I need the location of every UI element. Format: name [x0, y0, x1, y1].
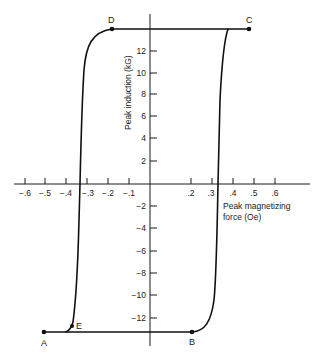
point-c-marker — [247, 27, 252, 32]
x-tick-label: .4 — [229, 188, 236, 198]
point-e-marker — [70, 324, 74, 328]
x-axis-title-line2: force (Oe) — [223, 212, 261, 222]
x-tick-labels: −.6 −.5 −.4 −.3 −.2 −.1 .2 .3 .4 .5 .6 — [19, 188, 279, 198]
x-axis-title-line1: Peak magnetizing — [223, 201, 291, 211]
point-a-marker — [42, 330, 47, 335]
hysteresis-chart: −.6 −.5 −.4 −.3 −.2 −.1 .2 .3 .4 .5 .6 1… — [0, 0, 320, 359]
y-tick-label: 2 — [141, 156, 146, 166]
y-tick-label: 4 — [141, 133, 146, 143]
right-branch — [192, 29, 228, 332]
axes — [14, 14, 310, 346]
y-tick-label: −2 — [136, 201, 146, 211]
point-b-marker — [190, 330, 195, 335]
y-tick-label: −6 — [136, 246, 146, 256]
loop-points — [42, 27, 252, 335]
y-tick-label: −8 — [136, 268, 146, 278]
x-tick-label: −.2 — [102, 188, 114, 198]
x-tick-label: −.6 — [19, 188, 31, 198]
left-branch — [66, 29, 112, 332]
y-tick-label: 12 — [137, 46, 147, 56]
y-tick-label: −12 — [132, 313, 147, 323]
x-tick-label: .6 — [271, 188, 278, 198]
y-tick-label: −4 — [136, 223, 146, 233]
point-d-label: D — [108, 15, 115, 25]
y-tick-label: 8 — [141, 89, 146, 99]
x-tick-label: −.5 — [39, 188, 51, 198]
x-tick-label: .5 — [250, 188, 257, 198]
x-tick-label: −.3 — [82, 188, 94, 198]
point-e-label: E — [76, 321, 82, 331]
point-a-label: A — [41, 338, 47, 348]
y-tick-label: 6 — [141, 111, 146, 121]
x-tick-label: .2 — [187, 188, 194, 198]
y-tick-label: 10 — [137, 68, 147, 78]
y-axis-title: Peak induction (kG) — [123, 55, 133, 130]
x-tick-label: .3 — [207, 188, 214, 198]
point-c-label: C — [246, 15, 253, 25]
hysteresis-loop — [44, 29, 249, 332]
point-d-marker — [110, 27, 115, 32]
x-tick-label: −.1 — [123, 188, 135, 198]
point-b-label: B — [189, 337, 195, 347]
y-tick-label: −10 — [132, 290, 147, 300]
x-tick-label: −.4 — [60, 188, 72, 198]
